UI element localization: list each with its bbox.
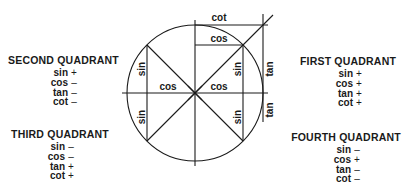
radius-first-quadrant-extended bbox=[195, 15, 273, 93]
label-tan-upper: tan bbox=[264, 62, 275, 77]
label-cos-left: cos bbox=[159, 81, 177, 92]
unit-circle-diagram: cot cos cos cos sin sin sin sin tan tan bbox=[0, 0, 408, 193]
label-tan-lower: tan bbox=[264, 103, 275, 118]
radius-third-quadrant bbox=[147, 93, 195, 141]
label-sin-lower-right: sin bbox=[232, 110, 243, 124]
label-sin-upper-left: sin bbox=[136, 62, 147, 76]
label-cot: cot bbox=[212, 12, 228, 23]
label-cos-right: cos bbox=[210, 81, 228, 92]
label-cos-top: cos bbox=[210, 33, 228, 44]
label-sin-upper-right: sin bbox=[232, 62, 243, 76]
label-sin-lower-left: sin bbox=[136, 110, 147, 124]
